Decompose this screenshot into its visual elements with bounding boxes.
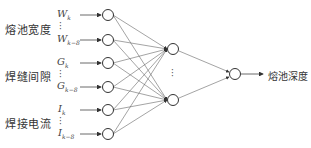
input-arrows [80,15,101,134]
input-hidden-edges [113,15,167,134]
hidden-ellipsis: ··· [171,69,174,78]
var-i-k8: Ik−8 [58,127,74,140]
hidden-output-edges [179,51,229,98]
vdots-w: ··· [59,22,62,31]
vdots-i: ··· [59,117,62,126]
group-label-width: 熔池宽度 [5,21,51,37]
var-w-k8: Wk−8 [57,33,80,46]
vdots-g: ··· [59,70,62,79]
group-label-gap: 焊缝间隙 [5,68,51,84]
neural-network-diagram: 熔池宽度 焊缝间隙 焊接电流 Wk ··· Wk−8 Gk ··· Gk−8 I… [0,0,311,148]
var-g-k8: Gk−8 [57,80,77,93]
group-label-current: 焊接电流 [5,115,51,131]
output-label: 熔池深度 [268,68,308,83]
